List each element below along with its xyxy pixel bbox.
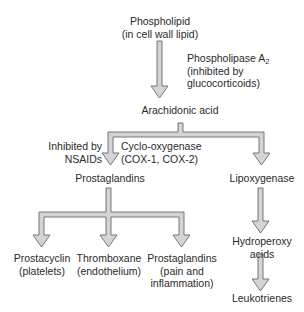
hydroperoxy-line1: Hydroperoxy xyxy=(220,235,304,248)
node-phospholipid-line1: Phospholipid xyxy=(110,15,210,28)
node-arachidonic-acid: Arachidonic acid xyxy=(120,104,240,117)
node-leukotrienes: Leukotrienes xyxy=(220,292,304,305)
prostaglandins-pain-line3: inflammation) xyxy=(144,277,220,290)
node-prostacyclin: Prostacyclin (platelets) xyxy=(10,252,74,277)
phospholipase-line2: (inhibited by xyxy=(187,65,269,78)
node-phospholipid-line2: (in cell wall lipid) xyxy=(110,28,210,41)
phospholipase-name: Phospholipase A xyxy=(187,52,265,64)
phospholipase-subscript: 2 xyxy=(265,57,269,66)
thromboxane-line1: Thromboxane xyxy=(76,252,142,265)
node-thromboxane: Thromboxane (endothelium) xyxy=(76,252,142,277)
hydroperoxy-line2: acids xyxy=(220,248,304,261)
thromboxane-line2: (endothelium) xyxy=(76,265,142,278)
cox-line1: Cyclo-oxygenase xyxy=(121,140,202,153)
node-phospholipid: Phospholipid (in cell wall lipid) xyxy=(110,15,210,40)
node-prostaglandins-pain: Prostaglandins (pain and inflammation) xyxy=(144,252,220,290)
prostaglandins-pain-line1: Prostaglandins xyxy=(144,252,220,265)
edge-label-nsaids: Inhibited by NSAIDs xyxy=(30,140,102,165)
phospholipase-line1: Phospholipase A2 xyxy=(187,52,269,65)
node-lipoxygenase: Lipoxygenase xyxy=(220,172,304,185)
cox-line2: (COX-1, COX-2) xyxy=(121,153,202,166)
prostaglandins-pain-line2: (pain and xyxy=(144,265,220,278)
edge-label-cox: Cyclo-oxygenase (COX-1, COX-2) xyxy=(121,140,202,165)
arrow-lipoxygenase-to-hydroperoxy xyxy=(252,188,269,233)
pathway-diagram: Phospholipid (in cell wall lipid) Phosph… xyxy=(0,0,304,312)
node-prostaglandins: Prostaglandins xyxy=(60,172,160,185)
prostacyclin-line2: (platelets) xyxy=(10,265,74,278)
arrow-prostaglandins-branch xyxy=(33,188,190,247)
arrow-phospholipid-to-arachidonic xyxy=(151,41,168,98)
nsaids-line1: Inhibited by xyxy=(30,140,102,153)
phospholipase-line3: glucocorticoids) xyxy=(187,77,269,90)
node-hydroperoxy-acids: Hydroperoxy acids xyxy=(220,235,304,260)
nsaids-line2: NSAIDs xyxy=(30,153,102,166)
prostacyclin-line1: Prostacyclin xyxy=(10,252,74,265)
edge-label-phospholipase: Phospholipase A2 (inhibited by glucocort… xyxy=(187,52,269,90)
